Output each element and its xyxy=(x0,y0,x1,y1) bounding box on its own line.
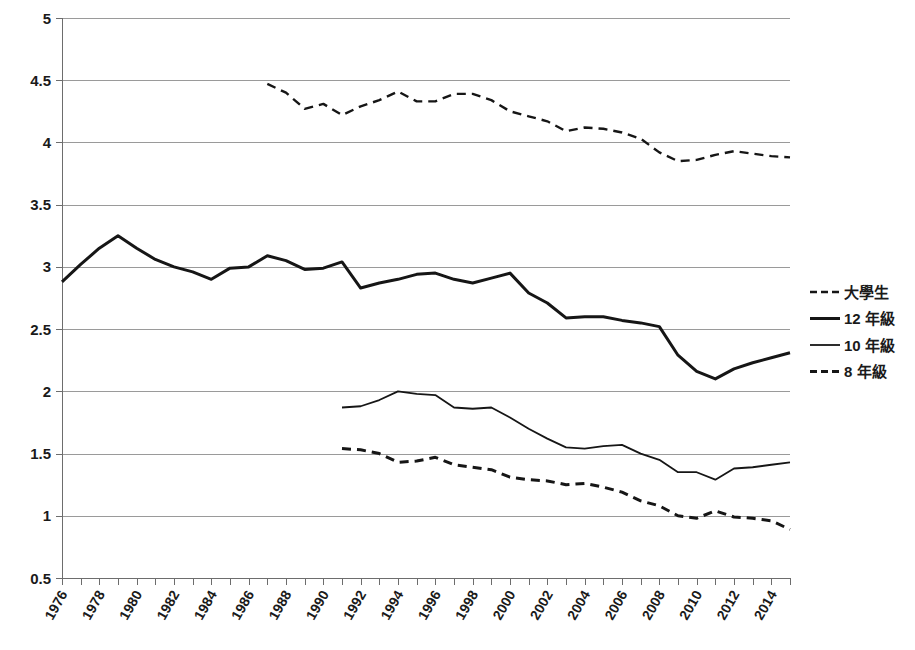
series-line-2 xyxy=(342,391,790,479)
chart-canvas: 54.543.532.521.510.5 1976197819801982198… xyxy=(0,0,915,650)
x-tick-label: 1988 xyxy=(265,587,295,622)
y-tick-label: 2 xyxy=(43,383,51,400)
data-series-group xyxy=(62,84,790,530)
x-tick-label: 1976 xyxy=(41,587,71,622)
x-tick-label: 2010 xyxy=(676,587,706,622)
x-tick-label: 1980 xyxy=(116,587,146,622)
line-chart: 54.543.532.521.510.5 1976197819801982198… xyxy=(0,0,915,650)
y-tick-labels: 54.543.532.521.510.5 xyxy=(30,10,52,587)
legend-item-1[interactable]: 12 年級 xyxy=(810,310,895,327)
y-tick-label: 3 xyxy=(43,258,51,275)
gridlines xyxy=(62,19,790,579)
x-tick-label: 2004 xyxy=(564,587,594,622)
legend-label: 8 年級 xyxy=(844,363,887,380)
x-tick-label: 2002 xyxy=(526,587,556,622)
y-tick-label: 5 xyxy=(43,10,51,27)
y-tick-label: 0.5 xyxy=(30,570,51,587)
y-tick-label: 2.5 xyxy=(30,321,51,338)
y-tick-label: 4.5 xyxy=(30,72,51,89)
x-tick-label: 1978 xyxy=(78,587,108,622)
x-tick-label: 1992 xyxy=(340,587,370,622)
x-tick-labels: 1976197819801982198419861988199019921994… xyxy=(41,587,780,622)
x-tick-label: 1996 xyxy=(414,587,444,622)
x-tick-label: 1994 xyxy=(377,587,407,622)
x-tick-label: 1982 xyxy=(153,587,183,622)
series-line-0 xyxy=(267,84,790,161)
x-tick-label: 2012 xyxy=(713,587,743,622)
x-tick-label: 2006 xyxy=(601,587,631,622)
y-tick-label: 3.5 xyxy=(30,196,51,213)
x-tick-label: 2000 xyxy=(489,587,519,622)
x-tick-label: 2014 xyxy=(750,587,780,622)
y-tick-label: 1 xyxy=(43,507,51,524)
x-tick-label: 1998 xyxy=(452,587,482,622)
y-axis xyxy=(56,18,63,579)
legend-label: 12 年級 xyxy=(844,310,895,327)
legend-item-0[interactable]: 大學生 xyxy=(810,284,889,301)
x-tick-label: 2008 xyxy=(638,587,668,622)
legend-label: 大學生 xyxy=(844,284,889,301)
x-tick-label: 1986 xyxy=(228,587,258,622)
x-tick-label: 1990 xyxy=(302,587,332,622)
x-axis xyxy=(62,578,791,585)
chart-legend: 大學生12 年級10 年級8 年級 xyxy=(810,284,895,381)
series-line-1 xyxy=(62,236,790,379)
x-tick-label: 1984 xyxy=(190,587,220,622)
y-tick-label: 1.5 xyxy=(30,445,51,462)
legend-label: 10 年級 xyxy=(844,337,895,354)
legend-item-2[interactable]: 10 年級 xyxy=(810,337,895,354)
legend-item-3[interactable]: 8 年級 xyxy=(810,363,887,380)
y-tick-label: 4 xyxy=(43,134,52,151)
series-line-3 xyxy=(342,449,790,530)
